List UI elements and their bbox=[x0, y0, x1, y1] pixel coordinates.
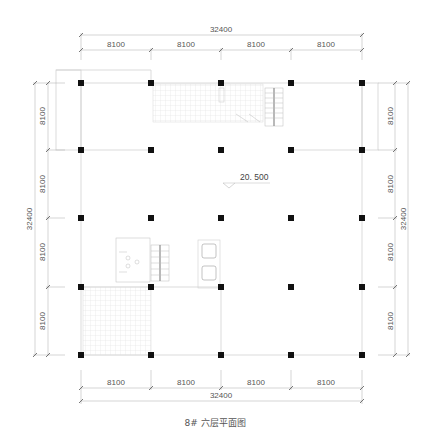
dim-bottom-overall: 32400 bbox=[210, 391, 233, 400]
bottom-left-hatched-area bbox=[83, 287, 151, 355]
dim-top-bay-4: 8100 bbox=[317, 40, 335, 49]
dim-bottom-bay-2: 8100 bbox=[177, 378, 195, 387]
dim-bottom-bay-1: 8100 bbox=[107, 378, 125, 387]
dim-left-bay-2: 8100 bbox=[38, 175, 47, 193]
dim-left-bay-3: 8100 bbox=[38, 243, 47, 261]
elevators bbox=[198, 240, 220, 288]
dim-top-bay-1: 8100 bbox=[107, 40, 125, 49]
dim-right-bay-3: 8100 bbox=[386, 243, 395, 261]
dim-left-bay-4: 8100 bbox=[38, 312, 47, 330]
dim-right-bay-4: 8100 bbox=[386, 312, 395, 330]
dim-top-bay-3: 8100 bbox=[247, 40, 265, 49]
dim-top-overall: 32400 bbox=[210, 25, 233, 34]
dim-right-overall: 32400 bbox=[399, 207, 408, 230]
dim-left-overall: 32400 bbox=[25, 207, 34, 230]
dim-right-bay-2: 8100 bbox=[386, 175, 395, 193]
top-hatched-area bbox=[153, 84, 263, 122]
left-stair-core bbox=[116, 238, 169, 282]
floor-plan-drawing: 20. 500 32400 8100 8100 8100 8100 8100 8… bbox=[0, 0, 431, 441]
elevation-marker: 20. 500 bbox=[223, 172, 270, 188]
dim-bottom-bay-4: 8100 bbox=[317, 378, 335, 387]
elevation-label: 20. 500 bbox=[240, 172, 269, 182]
drawing-title: 8# 六层平面图 bbox=[184, 417, 245, 428]
dim-bottom-bay-3: 8100 bbox=[247, 378, 265, 387]
dim-left-bay-1: 8100 bbox=[38, 107, 47, 125]
dim-top-bay-2: 8100 bbox=[177, 40, 195, 49]
dim-right-bay-1: 8100 bbox=[386, 107, 395, 125]
